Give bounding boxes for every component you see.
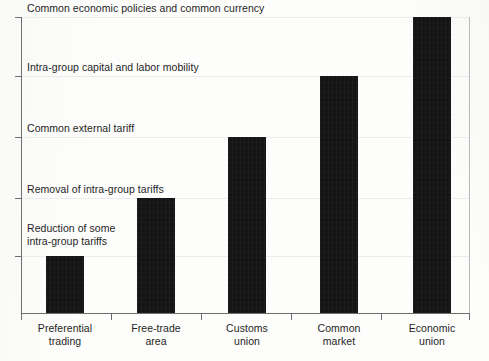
x-axis-line	[21, 313, 470, 314]
bar-free-trade-area[interactable]	[137, 198, 175, 313]
y-axis-line	[21, 17, 22, 314]
x-tick-2	[201, 313, 202, 320]
x-axis-label-preferential-trading: Preferential trading	[20, 322, 110, 348]
bar-chart: Common economic policies and common curr…	[0, 0, 489, 361]
bar-common-market[interactable]	[320, 76, 358, 313]
x-tick-0	[21, 313, 22, 320]
gridline-level-4	[22, 76, 469, 77]
bar-preferential-trading[interactable]	[46, 256, 84, 313]
y-tick-2	[15, 198, 22, 199]
bar-economic-union[interactable]	[413, 17, 451, 313]
x-axis-label-common-market: Common market	[294, 322, 384, 348]
x-axis-label-economic-union: Economic union	[387, 322, 477, 348]
y-axis-label-level-2: Removal of intra-group tariffs	[27, 183, 164, 196]
y-tick-5	[15, 17, 22, 18]
y-tick-4	[15, 76, 22, 77]
gridline-level-5	[22, 17, 469, 18]
y-axis-label-level-5: Common economic policies and common curr…	[27, 2, 264, 15]
y-axis-label-level-4: Intra-group capital and labor mobility	[27, 61, 199, 74]
x-tick-3	[291, 313, 292, 320]
x-axis-label-free-trade-area: Free-trade area	[111, 322, 201, 348]
y-axis-label-level-1: Reduction of some intra-group tariffs	[27, 222, 115, 247]
x-axis-label-customs-union: Customs union	[202, 322, 292, 348]
y-tick-3	[15, 137, 22, 138]
y-axis-label-level-3: Common external tariff	[27, 122, 134, 135]
x-tick-4	[381, 313, 382, 320]
y-tick-1	[15, 256, 22, 257]
bar-customs-union[interactable]	[228, 137, 266, 313]
x-tick-5	[469, 313, 470, 320]
plot-right-border	[469, 17, 470, 314]
x-tick-1	[111, 313, 112, 320]
